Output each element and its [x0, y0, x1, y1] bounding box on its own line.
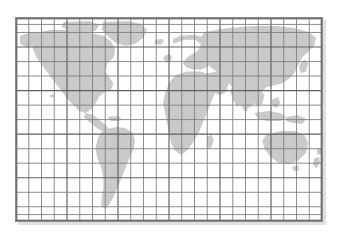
madagascar-shape [207, 135, 214, 149]
hawaii-shape [50, 94, 54, 97]
landmass-layer [20, 21, 321, 209]
map-canvas [16, 18, 322, 221]
philippines-shape [271, 97, 280, 108]
world-map-figure [15, 17, 323, 222]
tasmania-shape [292, 166, 299, 172]
caribbean-shape [107, 116, 121, 121]
iceland-shape [154, 39, 164, 45]
north-america-shape [32, 30, 115, 113]
map-frame [15, 17, 323, 222]
south-america-shape [95, 127, 135, 209]
new-zealand-shape [313, 157, 320, 169]
australia-shape [262, 131, 308, 165]
